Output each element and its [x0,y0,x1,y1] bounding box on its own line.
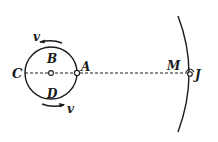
label-c: C [12,66,23,81]
label-b: B [46,52,57,66]
label-m: M [166,59,181,73]
point-j [188,72,193,77]
label-d: D [46,87,58,101]
label-j: J [193,68,202,82]
label-v-bottom: v [67,102,75,116]
arrowhead-bottom-icon [59,103,65,108]
point-a [74,70,79,75]
label-a: A [80,60,90,74]
diagram-canvas: C B A D v v M J [0,0,218,142]
center-point [49,71,54,76]
label-v-top: v [33,30,41,44]
